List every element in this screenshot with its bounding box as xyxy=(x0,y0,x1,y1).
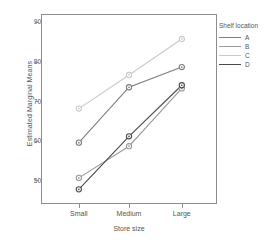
legend-label: A xyxy=(245,33,249,42)
x-tick-label: Large xyxy=(152,210,212,217)
legend: Shelf location ABCD xyxy=(219,22,269,69)
data-point-center xyxy=(78,108,80,110)
data-point-center xyxy=(181,38,183,40)
data-point-center xyxy=(128,74,130,76)
legend-item-b[interactable]: B xyxy=(219,42,269,51)
data-point-center xyxy=(128,135,130,137)
legend-items: ABCD xyxy=(219,33,269,69)
y-tick-mark xyxy=(35,141,39,142)
legend-title: Shelf location xyxy=(219,22,269,29)
data-point-center xyxy=(128,145,130,147)
legend-label: D xyxy=(245,60,250,69)
legend-swatch-c xyxy=(219,55,241,57)
legend-swatch-b xyxy=(219,46,241,48)
data-point-center xyxy=(181,84,183,86)
legend-item-a[interactable]: A xyxy=(219,33,269,42)
data-point-center xyxy=(78,189,80,191)
y-tick-mark xyxy=(35,22,39,23)
legend-swatch-a xyxy=(219,37,241,39)
series-line-b xyxy=(79,88,182,177)
data-point-center xyxy=(78,177,80,179)
y-tick-mark xyxy=(35,101,39,102)
x-axis-title: Store size xyxy=(41,225,217,232)
y-tick-mark xyxy=(35,62,39,63)
x-tick-mark xyxy=(79,204,80,208)
legend-swatch-d xyxy=(219,64,241,66)
x-tick-mark xyxy=(129,204,130,208)
y-axis-title: Estimated Marginal Means xyxy=(26,24,33,184)
legend-label: C xyxy=(245,51,250,60)
legend-label: B xyxy=(245,42,249,51)
x-tick-mark xyxy=(182,204,183,208)
data-point-center xyxy=(181,66,183,68)
data-point-center xyxy=(128,86,130,88)
y-tick-mark xyxy=(35,180,39,181)
legend-item-c[interactable]: C xyxy=(219,51,269,60)
data-point-center xyxy=(78,142,80,144)
legend-item-d[interactable]: D xyxy=(219,60,269,69)
x-tick-label: Medium xyxy=(99,210,159,217)
series-layer xyxy=(41,14,217,204)
profile-plot-figure: 5060708090 Estimated Marginal Means Stor… xyxy=(0,0,269,251)
